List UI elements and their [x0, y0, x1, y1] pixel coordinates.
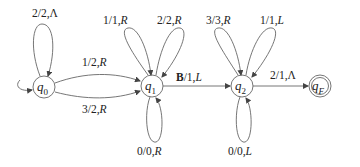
- loop-q1-bottom: [156, 98, 162, 142]
- label-q2-qF: 2/1,Λ: [270, 70, 296, 82]
- label-q1-loop-right: 2/2,R: [157, 15, 182, 27]
- state-q2-label: q2: [235, 79, 246, 96]
- loop-q1-right: [156, 28, 184, 77]
- loop-q2-bottom: [245, 98, 251, 142]
- label-q2-loop-right: 1/1,L: [260, 15, 284, 27]
- loop-q1-left: [124, 28, 151, 75]
- state-qF-label: qF: [312, 79, 324, 96]
- loop-q0-top: [33, 24, 52, 76]
- state-q1-label: q1: [145, 79, 156, 96]
- label-q1-loop-bottom: 0/0,R: [137, 146, 162, 158]
- edge-q0-q1-top: [55, 74, 140, 83]
- label-q0-q1-bottom: 3/2,R: [82, 104, 107, 116]
- label-q2-loop-left: 3/3,R: [206, 15, 231, 27]
- label-q0-q1-top: 1/2,R: [82, 57, 107, 69]
- initial-arrow: [18, 80, 32, 90]
- label-q1-loop-left: 1/1,R: [103, 15, 128, 27]
- label-q2-loop-bottom: 0/0,L: [228, 146, 252, 158]
- label-q1-q2: B/1,L: [176, 72, 202, 84]
- label-q0-loop: 2/2,Λ: [32, 8, 58, 20]
- edge-q0-q1-bottom: [55, 91, 140, 98]
- loop-q2-left: [215, 28, 241, 75]
- state-q0-label: q0: [37, 80, 48, 97]
